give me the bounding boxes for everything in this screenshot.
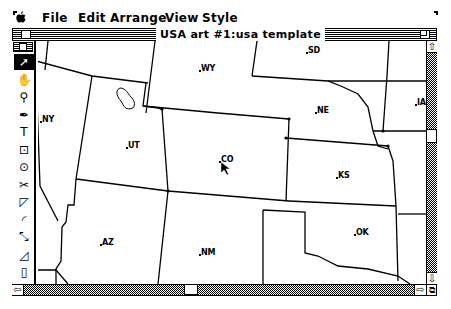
- drawing-canvas[interactable]: SDWYNYNEIAUTCOKSAZNMOK: [38, 41, 426, 284]
- centered-rect-tool-icon[interactable]: ⊡: [14, 142, 34, 158]
- state-label-co[interactable]: CO: [221, 155, 233, 164]
- apple-menu-icon[interactable]: [16, 11, 26, 26]
- toolbox-handle[interactable]: [13, 42, 33, 52]
- scroll-down-arrow-icon[interactable]: ⇩: [427, 272, 437, 284]
- window-title-bar[interactable]: USA art #1:usa template: [12, 28, 437, 41]
- grabber-tool-icon[interactable]: ✋: [14, 72, 34, 88]
- zoom-box[interactable]: [420, 30, 430, 39]
- state-label-ny[interactable]: NY: [42, 115, 54, 124]
- menu-edit[interactable]: Edit: [78, 11, 106, 25]
- arrow-tool-icon[interactable]: ➚: [14, 54, 34, 70]
- state-label-ne[interactable]: NE: [317, 106, 329, 115]
- scissors-tool-icon[interactable]: ✂: [14, 177, 34, 193]
- state-label-ia[interactable]: IA: [417, 98, 426, 107]
- pen-tool-icon[interactable]: ✒: [14, 107, 34, 123]
- rectangle-tool-icon[interactable]: ◸: [14, 194, 34, 210]
- state-label-sd[interactable]: SD: [308, 46, 320, 55]
- menu-view[interactable]: View: [165, 11, 199, 25]
- page-tool-icon[interactable]: ▯: [14, 264, 34, 280]
- horizontal-scroll-thumb[interactable]: [184, 284, 198, 295]
- scroll-left-arrow-icon[interactable]: ⇦: [12, 285, 24, 295]
- grow-box-icon[interactable]: ⧉: [426, 284, 437, 296]
- horizontal-scrollbar[interactable]: ⇦ ⇨: [12, 284, 426, 296]
- menu-bar: File Edit Arrange View Style: [0, 10, 451, 26]
- vertical-scrollbar[interactable]: ⇧ ⇩: [426, 41, 437, 284]
- menu-arrange[interactable]: Arrange: [110, 11, 167, 25]
- state-label-nm[interactable]: NM: [201, 248, 215, 257]
- vertical-scroll-thumb[interactable]: [426, 129, 437, 143]
- menu-style[interactable]: Style: [202, 11, 238, 25]
- screen-corner-right: [434, 11, 438, 15]
- centered-oval-tool-icon[interactable]: ⊙: [14, 159, 34, 175]
- freehand-tool-icon[interactable]: ⤡: [14, 229, 34, 245]
- state-label-wy[interactable]: WY: [201, 64, 215, 73]
- menu-file[interactable]: File: [42, 11, 68, 25]
- screen-corner-left: [13, 11, 17, 15]
- close-box[interactable]: [21, 30, 31, 39]
- zoom-tool-icon[interactable]: ⚲: [14, 89, 34, 105]
- arc-tool-icon[interactable]: ◜: [14, 212, 34, 228]
- window-title: USA art #1:usa template: [156, 28, 325, 41]
- scroll-right-arrow-icon[interactable]: ⇨: [414, 285, 426, 295]
- state-label-ut[interactable]: UT: [128, 141, 140, 150]
- text-tool-icon[interactable]: T: [14, 124, 34, 140]
- toolbox: ➚✋⚲✒T⊡⊙✂◸◜⤡◿▯: [12, 41, 36, 284]
- reflect-tool-icon[interactable]: ◿: [14, 247, 34, 263]
- scroll-up-arrow-icon[interactable]: ⇧: [427, 41, 437, 53]
- state-label-ok[interactable]: OK: [356, 228, 369, 237]
- state-label-az[interactable]: AZ: [102, 238, 114, 247]
- state-label-ks[interactable]: KS: [338, 171, 350, 180]
